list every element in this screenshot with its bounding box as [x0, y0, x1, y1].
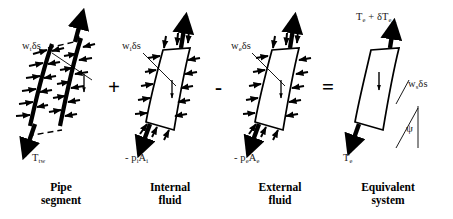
label-pipe-tension-symbol: T: [32, 152, 39, 163]
pipe-wall-left: [30, 44, 52, 126]
label-equivalent-tension: Te: [343, 152, 353, 163]
figure-canvas: wtδs Ttw wiδs - piAi weδs - peAe Te + δT…: [0, 0, 453, 219]
label-external-weight-suffix: δs: [242, 40, 251, 51]
label-internal-weight-sub: i: [130, 45, 132, 52]
label-equiv-deltaT-symbol: δT: [377, 11, 389, 22]
label-pipe-weight-suffix: δs: [32, 40, 41, 51]
caption-internal-fluid: Internal fluid: [115, 181, 225, 207]
label-equiv-T-symbol: T: [356, 11, 363, 22]
equivalent-system-body: [355, 48, 399, 130]
label-external-weight: weδs: [231, 40, 251, 51]
label-internal-p-symbol: - p: [125, 152, 137, 163]
label-internal-a-sub: i: [146, 157, 148, 164]
caption-equivalent-system: Equivalent system: [333, 181, 443, 207]
label-internal-weight-symbol: w: [122, 40, 130, 51]
label-angle-psi: ψ: [406, 122, 413, 134]
label-internal-weight-suffix: δs: [132, 40, 141, 51]
label-pipe-tension: Ttw: [32, 152, 45, 163]
top-force-arrow: [290, 16, 295, 48]
top-tension-arrow: [390, 22, 394, 48]
minus-operator: -: [215, 77, 222, 98]
label-pipe-weight-sub: t: [30, 45, 32, 52]
caption-external-fluid-line1: External: [225, 181, 335, 194]
top-force-arrow: [181, 16, 186, 48]
label-pipe-tension-sub: tw: [39, 157, 46, 164]
label-internal-weight: wiδs: [122, 40, 141, 51]
panel-external-fluid-graphics: [243, 16, 311, 154]
label-equiv-bottom-T-symbol: T: [343, 152, 350, 163]
caption-pipe-segment: Pipe segment: [6, 181, 116, 207]
label-submerged-weight-symbol: w: [408, 78, 416, 89]
caption-pipe-segment-line1: Pipe: [6, 181, 116, 194]
caption-equivalent-system-line1: Equivalent: [333, 181, 443, 194]
label-pipe-weight: wtδs: [22, 40, 41, 51]
bottom-tension-arrow: [349, 124, 359, 152]
caption-internal-fluid-line1: Internal: [115, 181, 225, 194]
label-equiv-deltaT-sub: e: [389, 16, 392, 23]
label-equiv-T-sub: e: [363, 16, 366, 23]
equals-operator: =: [322, 77, 334, 98]
label-submerged-weight-sub: s: [416, 83, 419, 90]
label-external-pressure-force: - peAe: [234, 152, 259, 163]
panel-pipe-segment-graphics: [16, 12, 95, 156]
label-submerged-weight: wsδs: [408, 78, 428, 89]
label-submerged-weight-suffix: δs: [418, 78, 427, 89]
label-equiv-plus: +: [366, 11, 377, 22]
internal-fluid-body: [146, 48, 190, 130]
label-external-p-symbol: - p: [234, 152, 246, 163]
caption-pipe-segment-line2: segment: [6, 194, 116, 207]
label-internal-pressure-force: - piAi: [125, 152, 148, 163]
plus-operator: +: [108, 77, 120, 98]
label-external-weight-sub: e: [239, 45, 242, 52]
caption-equivalent-system-line2: system: [333, 194, 443, 207]
label-equivalent-top-tension: Te + δTe: [356, 11, 392, 22]
label-internal-p-sub: i: [137, 157, 139, 164]
external-fluid-body: [255, 48, 299, 130]
caption-internal-fluid-line2: fluid: [115, 194, 225, 207]
label-external-a-sub: e: [256, 157, 259, 164]
label-equiv-bottom-T-sub: e: [350, 157, 353, 164]
label-external-weight-symbol: w: [231, 40, 239, 51]
caption-external-fluid: External fluid: [225, 181, 335, 207]
label-external-p-sub: e: [246, 157, 249, 164]
label-pipe-weight-symbol: w: [22, 40, 30, 51]
caption-external-fluid-line2: fluid: [225, 194, 335, 207]
